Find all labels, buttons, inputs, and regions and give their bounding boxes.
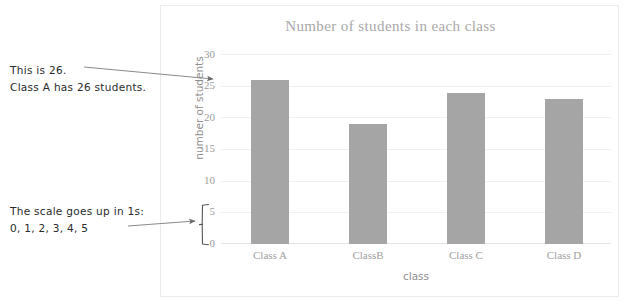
x-tick-class-b: ClassB: [319, 249, 417, 261]
annotation-bottom: The scale goes up in 1s: 0, 1, 2, 3, 4, …: [10, 203, 144, 237]
chart-panel: Number of students in each class 0 5 10 …: [160, 5, 619, 297]
bar-class-b[interactable]: [349, 124, 387, 244]
gridline-30: [221, 54, 611, 55]
annotation-top-line1: This is 26.: [10, 62, 146, 79]
plot-area: [221, 54, 611, 244]
x-tick-class-d: Class D: [515, 249, 613, 261]
bar-class-a[interactable]: [251, 80, 289, 244]
x-axis-title: class: [221, 270, 611, 282]
y-axis-title: number of students: [193, 48, 205, 168]
chart-title: Number of students in each class: [161, 18, 620, 35]
x-tick-class-a: Class A: [221, 249, 319, 261]
annotation-top: This is 26. Class A has 26 students.: [10, 62, 146, 96]
bar-class-c[interactable]: [447, 93, 485, 244]
y-tick-10: 10: [189, 175, 215, 186]
annotation-bottom-line1: The scale goes up in 1s:: [10, 203, 144, 220]
bar-class-d[interactable]: [545, 99, 583, 244]
x-tick-class-c: Class C: [417, 249, 515, 261]
annotation-top-line2: Class A has 26 students.: [10, 79, 146, 96]
scale-bracket-icon: [198, 203, 212, 247]
annotation-bottom-line2: 0, 1, 2, 3, 4, 5: [10, 220, 144, 237]
x-axis-ticks: Class A ClassB Class C Class D: [221, 249, 611, 265]
